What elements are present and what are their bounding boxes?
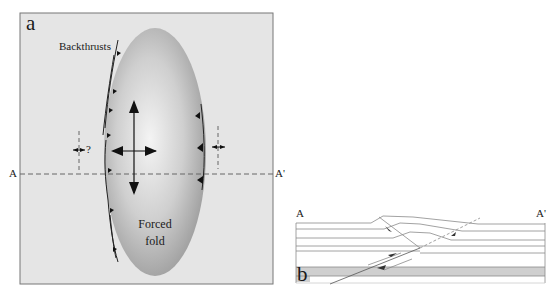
section-start-label-b: A xyxy=(296,208,304,219)
panel-b xyxy=(296,216,545,284)
forced-fold-label-line1: Forced xyxy=(138,218,172,230)
question-mark-label: ? xyxy=(86,144,91,155)
panel-a-letter: a xyxy=(26,13,35,34)
section-end-label-b: A' xyxy=(536,208,546,219)
section-end-label-a: A' xyxy=(275,168,285,179)
backthrusts-label: Backthrusts xyxy=(59,41,111,52)
panel-b-shaded-layer xyxy=(296,267,545,276)
forced-fold-label-line2: fold xyxy=(138,235,172,247)
section-start-label-a: A xyxy=(9,168,17,179)
panel-b-letter: b xyxy=(297,264,308,285)
